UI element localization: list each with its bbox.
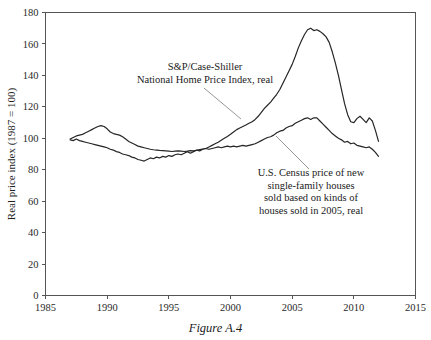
- x-tick-label: 2005: [282, 302, 303, 313]
- x-tick-label: 1995: [158, 302, 179, 313]
- x-axis-tick-labels: 1985199019952000200520102015: [35, 302, 426, 313]
- figure-caption: Figure A.4: [188, 321, 242, 335]
- y-axis-title: Real price index (1987 = 100): [5, 87, 18, 220]
- tick-marks: [42, 13, 416, 300]
- x-tick-label: 2015: [405, 302, 426, 313]
- annotation-case-shiller-label: S&P/Case-ShillerNational Home Price Inde…: [137, 61, 273, 85]
- y-axis-tick-labels: 020406080100120140160180: [23, 7, 39, 301]
- axis-frame: [46, 13, 416, 296]
- annotation-labels: S&P/Case-ShillerNational Home Price Inde…: [137, 61, 365, 216]
- leader-line-case-shiller-label: [204, 88, 241, 119]
- x-tick-label: 2010: [343, 302, 364, 313]
- annotation-leader-lines: [204, 88, 309, 169]
- plot-frame: [46, 13, 416, 296]
- x-tick-label: 1985: [35, 302, 56, 313]
- y-tick-label: 180: [23, 7, 39, 18]
- y-tick-label: 0: [33, 290, 38, 301]
- x-tick-label: 1990: [97, 302, 118, 313]
- y-tick-label: 160: [23, 39, 39, 50]
- y-tick-label: 20: [28, 259, 39, 270]
- y-tick-label: 60: [28, 196, 39, 207]
- y-tick-label: 120: [23, 101, 39, 112]
- y-tick-label: 140: [23, 70, 39, 81]
- y-axis-title-text: Real price index (1987 = 100): [5, 87, 18, 220]
- annotation-census-label: U.S. Census price of newsingle-family ho…: [258, 167, 365, 216]
- y-tick-label: 40: [28, 227, 39, 238]
- y-tick-label: 80: [28, 164, 39, 175]
- y-tick-label: 100: [23, 133, 39, 144]
- x-tick-label: 2000: [220, 302, 241, 313]
- leader-line-census-label: [276, 136, 309, 169]
- series-line-us-census: [70, 118, 378, 161]
- caption-text: Figure A.4: [188, 321, 242, 335]
- chart-canvas: 1985199019952000200520102015 02040608010…: [0, 0, 431, 340]
- data-series-group: [70, 28, 378, 161]
- figure-container: 1985199019952000200520102015 02040608010…: [0, 0, 431, 340]
